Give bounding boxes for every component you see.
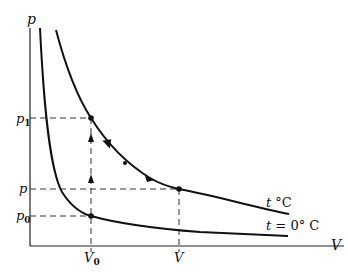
label-isotherm-t: t °C <box>266 195 292 210</box>
label-isotherm-0c: t = 0° C <box>266 218 319 233</box>
tick-v0: V0 <box>84 250 100 267</box>
point-v0-p0 <box>88 213 94 219</box>
point-v0-p1 <box>88 115 94 121</box>
tick-p: p <box>19 181 28 196</box>
y-axis-label: p <box>27 11 36 27</box>
point-v-p <box>176 186 182 192</box>
arrow-up-icon <box>88 174 94 183</box>
arrow-icon <box>123 161 127 165</box>
pv-diagram: p V p1 p p0 V0 V t °C t = 0° C <box>0 0 348 272</box>
tick-p0: p0 <box>16 208 31 225</box>
arrow-up-icon <box>88 133 94 142</box>
tick-p1: p1 <box>16 111 31 128</box>
tick-v: V <box>174 250 185 265</box>
x-axis-label: V <box>331 237 343 253</box>
